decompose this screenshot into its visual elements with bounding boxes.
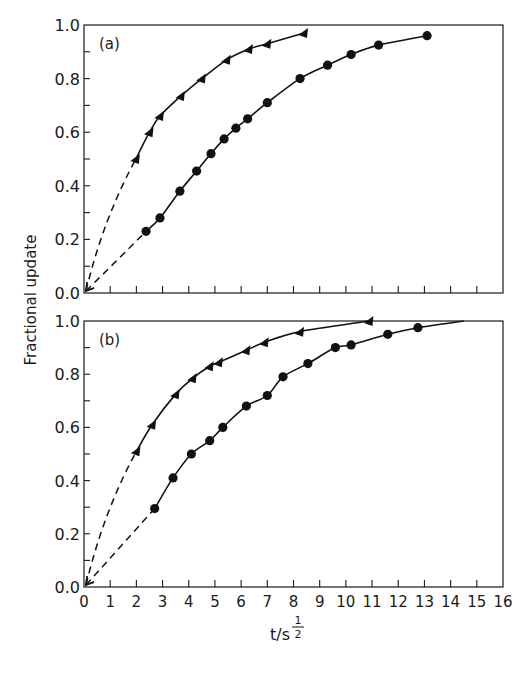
circle-data-point [347, 340, 356, 349]
triangle-data-point [154, 111, 164, 121]
y-tick-label: 0.6 [55, 418, 80, 437]
x-tick-label: 8 [289, 593, 299, 611]
circle-data-point [323, 61, 332, 70]
panel-b-label: (b) [99, 331, 120, 349]
y-tick-label: 0.0 [55, 578, 80, 597]
y-tick-label: 1.0 [55, 16, 80, 35]
x-tick-label: 3 [158, 593, 168, 611]
triangle-data-point [243, 44, 253, 54]
x-tick-label: 0 [79, 593, 89, 611]
x-tick-label: 11 [363, 593, 382, 611]
circle-data-point [150, 504, 159, 513]
triangle-data-point [259, 337, 269, 347]
triangle-data-point [131, 446, 141, 456]
x-tick-label: 12 [389, 593, 408, 611]
y-tick-label: 0.4 [55, 177, 80, 196]
x-axis-label-exp-num: 1 [295, 614, 302, 627]
y-tick-label: 0.0 [55, 284, 80, 303]
fit-curve-triangles [136, 321, 369, 451]
triangle-data-point [213, 357, 223, 367]
chart-figure: 0.00.20.40.60.81.0 0.00.20.40.60.81.0012… [0, 0, 526, 674]
triangle-data-point [298, 28, 308, 38]
extrapolation-line [86, 159, 136, 291]
triangle-data-point [130, 154, 140, 164]
extrapolation-line [86, 231, 146, 291]
x-tick-label: 1 [105, 593, 115, 611]
fit-curve-circles [146, 36, 427, 232]
circle-data-point [263, 98, 272, 107]
circle-data-point [278, 372, 287, 381]
circle-data-point [413, 323, 422, 332]
triangle-data-point [295, 327, 305, 337]
circle-data-point [168, 473, 177, 482]
circle-data-point [263, 391, 272, 400]
triangle-data-point [144, 127, 154, 137]
y-tick-label: 0.4 [55, 472, 80, 491]
x-tick-label: 14 [441, 593, 460, 611]
triangle-data-point [147, 420, 157, 430]
panel-a: 0.00.20.40.60.81.0 [55, 16, 503, 303]
x-tick-label: 2 [132, 593, 142, 611]
y-tick-label: 0.2 [55, 525, 80, 544]
x-tick-label: 7 [263, 593, 273, 611]
circle-data-point [243, 114, 252, 123]
circle-data-point [422, 31, 431, 40]
circle-data-point [141, 227, 150, 236]
x-axis-label: t/s 1 2 [270, 614, 304, 644]
y-tick-label: 0.8 [55, 70, 80, 89]
circle-data-point [331, 343, 340, 352]
plot-frame [84, 25, 503, 293]
circle-data-point [295, 74, 304, 83]
circle-data-point [175, 187, 184, 196]
panel-a-label: (a) [99, 35, 120, 53]
triangle-data-point [170, 389, 180, 399]
fit-curve-circles [155, 321, 464, 509]
plot-frame [84, 321, 503, 587]
x-axis-label-main: t/s [270, 625, 290, 644]
panel-b: 0.00.20.40.60.81.00123456789101112131415… [55, 312, 513, 611]
y-tick-label: 0.2 [55, 230, 80, 249]
extrapolation-line [86, 451, 136, 585]
circle-data-point [205, 436, 214, 445]
circle-data-point [231, 124, 240, 133]
circle-data-point [347, 50, 356, 59]
y-axis-label: Fractional update [22, 235, 40, 366]
x-tick-label: 15 [467, 593, 486, 611]
x-tick-label: 13 [415, 593, 434, 611]
circle-data-point [303, 359, 312, 368]
x-tick-label: 16 [493, 593, 512, 611]
triangle-data-point [262, 39, 272, 49]
circle-data-point [187, 449, 196, 458]
circle-data-point [374, 41, 383, 50]
circle-data-point [206, 149, 215, 158]
x-tick-label: 6 [236, 593, 246, 611]
circle-data-point [192, 166, 201, 175]
circle-data-point [218, 423, 227, 432]
y-tick-label: 0.6 [55, 123, 80, 142]
circle-data-point [155, 213, 164, 222]
x-tick-label: 9 [315, 593, 325, 611]
triangle-data-point [241, 345, 251, 355]
circle-data-point [220, 134, 229, 143]
x-tick-label: 5 [210, 593, 220, 611]
y-tick-label: 0.8 [55, 365, 80, 384]
y-tick-label: 1.0 [55, 312, 80, 331]
x-tick-label: 4 [184, 593, 194, 611]
circle-data-point [242, 402, 251, 411]
x-tick-label: 10 [336, 593, 355, 611]
x-axis-label-exp-den: 2 [295, 628, 302, 641]
circle-data-point [383, 330, 392, 339]
